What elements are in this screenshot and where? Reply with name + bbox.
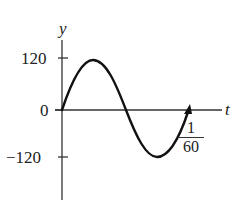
y-axis-label: y [59, 20, 67, 37]
tick-label-120: 120 [21, 50, 47, 67]
t-axis-label: t [225, 101, 230, 118]
period-numerator: 1 [178, 120, 204, 138]
curve-arrowhead-icon [184, 104, 192, 114]
period-denominator: 60 [178, 138, 204, 155]
sine-curve [62, 60, 188, 157]
tick-label-neg120: −120 [6, 149, 41, 166]
period-label: 1 60 [178, 120, 204, 155]
tick-label-0: 0 [40, 102, 49, 119]
sine-wave-plot [0, 0, 241, 202]
